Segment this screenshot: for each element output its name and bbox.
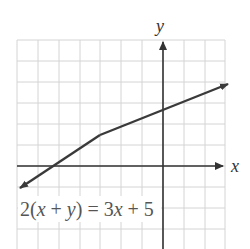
coordinate-graph: x y 2(x + y) = 3x + 5: [0, 0, 250, 249]
graphed-line: [100, 84, 228, 135]
y-axis-label: y: [154, 16, 164, 36]
graphed-line-left: [20, 135, 100, 188]
equation-label: 2(x + y) = 3x + 5: [20, 198, 154, 221]
x-axis-label: x: [230, 156, 239, 176]
